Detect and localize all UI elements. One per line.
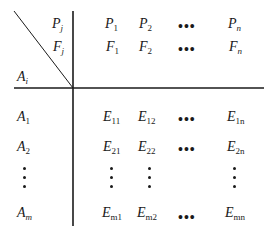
corner-label-fj: Fj (53, 40, 64, 58)
coln-vdots (233, 167, 237, 194)
header-pn: Pn (228, 17, 241, 35)
header-p1: P1 (105, 17, 118, 35)
col2-vdots (148, 167, 152, 194)
header-f1: F1 (106, 40, 119, 58)
header-p-ellipsis: ••• (178, 22, 196, 32)
row-label-a2: A2 (17, 140, 30, 158)
cell-e11: E11 (103, 110, 120, 128)
corner-label-pj: Pj (52, 17, 63, 35)
header-fn: Fn (229, 40, 242, 58)
header-p2: P2 (139, 17, 152, 35)
cell-em1: Em1 (102, 206, 122, 224)
cell-emn: Emn (225, 206, 245, 224)
row-label-vdots (23, 167, 27, 194)
row-label-a1: A1 (17, 110, 30, 128)
row-label-am: Am (17, 206, 32, 224)
row-a1-ellipsis: ••• (178, 115, 196, 125)
col1-vdots (110, 167, 114, 194)
decision-matrix-diagram: Pj Fj Ai P1 P2 ••• Pn F1 F2 ••• Fn A1 E1… (0, 0, 274, 235)
cell-em2: Em2 (137, 206, 157, 224)
cell-e12: E12 (138, 110, 156, 128)
row-a2-ellipsis: ••• (178, 145, 196, 155)
header-f2: F2 (139, 40, 152, 58)
cell-e21: E21 (103, 140, 121, 158)
cell-e1n: E1n (227, 110, 245, 128)
corner-label-ai: Ai (17, 70, 28, 88)
header-f-ellipsis: ••• (178, 45, 196, 55)
cell-e2n: E2n (227, 140, 245, 158)
row-am-ellipsis: ••• (178, 213, 196, 223)
cell-e22: E22 (138, 140, 156, 158)
